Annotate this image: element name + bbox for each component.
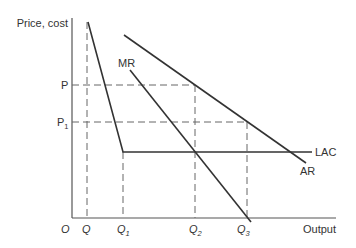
mr-curve [130, 70, 251, 222]
p1-label: P1 [57, 116, 69, 131]
x-axis-label: Output [303, 223, 336, 235]
q-label: Q [82, 223, 91, 235]
q3-label: Q3 [237, 223, 251, 238]
lac-curve [88, 22, 312, 152]
ar-label: AR [300, 165, 315, 177]
cost-revenue-diagram: Price, cost Output O P P1 Q Q1 Q2 Q3 MR … [0, 0, 356, 248]
lac-label: LAC [315, 146, 336, 158]
origin-label: O [61, 223, 70, 235]
q2-label: Q2 [189, 223, 203, 238]
p-label: P [61, 79, 68, 91]
mr-label: MR [118, 57, 135, 69]
y-axis-label: Price, cost [17, 17, 68, 29]
ar-curve [124, 35, 306, 163]
q1-label: Q1 [117, 223, 130, 238]
